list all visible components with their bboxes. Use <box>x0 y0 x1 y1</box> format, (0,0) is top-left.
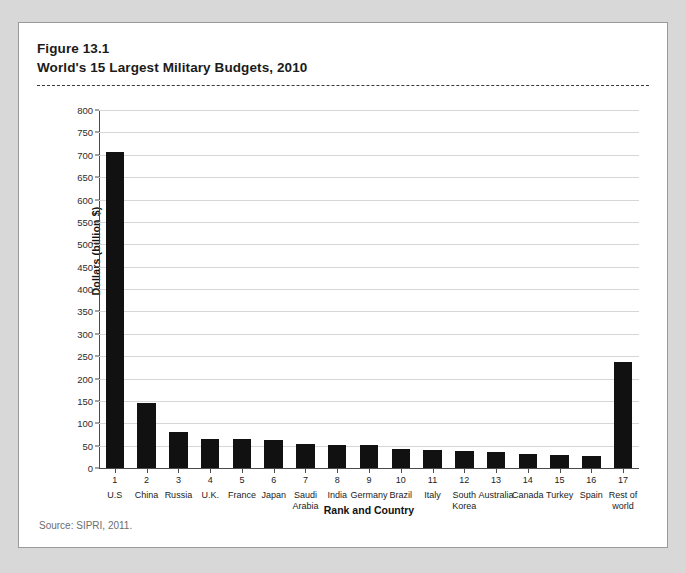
y-tick-mark <box>95 221 99 222</box>
bar <box>392 449 410 468</box>
y-tick-label: 600 <box>77 194 93 205</box>
gridline: 350 <box>99 311 639 312</box>
x-tick-mark <box>210 469 211 473</box>
y-tick-label: 350 <box>77 306 93 317</box>
bar <box>455 451 473 468</box>
x-category-rank: 17 <box>604 475 642 487</box>
bar <box>296 444 314 468</box>
y-tick-label: 650 <box>77 172 93 183</box>
gridline: 600 <box>99 200 639 201</box>
y-tick-mark <box>95 110 99 111</box>
y-tick-mark <box>95 378 99 379</box>
x-tick-mark <box>623 469 624 473</box>
y-tick-label: 100 <box>77 418 93 429</box>
gridline: 750 <box>99 132 639 133</box>
bar <box>614 362 632 469</box>
y-tick-label: 800 <box>77 105 93 116</box>
y-tick-label: 150 <box>77 395 93 406</box>
y-tick-mark <box>95 445 99 446</box>
x-tick-mark <box>242 469 243 473</box>
y-tick-mark <box>95 244 99 245</box>
source-note: Source: SIPRI, 2011. <box>39 520 132 531</box>
y-axis-line <box>99 111 100 469</box>
x-tick-mark <box>433 469 434 473</box>
x-tick-mark <box>496 469 497 473</box>
y-tick-label: 250 <box>77 351 93 362</box>
x-tick-mark <box>464 469 465 473</box>
plot-area: 0501001502002503003504004505005506006507… <box>99 111 639 469</box>
x-tick-mark <box>178 469 179 473</box>
x-tick-mark <box>274 469 275 473</box>
y-tick-label: 50 <box>82 440 93 451</box>
y-tick-mark <box>95 289 99 290</box>
x-tick-mark <box>147 469 148 473</box>
gridline: 150 <box>99 401 639 402</box>
bar <box>169 432 187 468</box>
x-tick-mark <box>528 469 529 473</box>
y-tick-mark <box>95 311 99 312</box>
x-tick-mark <box>115 469 116 473</box>
gridline: 550 <box>99 222 639 223</box>
bar <box>360 445 378 468</box>
y-tick-label: 0 <box>88 463 93 474</box>
gridline: 500 <box>99 244 639 245</box>
gridline: 250 <box>99 356 639 357</box>
y-tick-mark <box>95 423 99 424</box>
gridline: 800 <box>99 110 639 111</box>
gridline: 650 <box>99 177 639 178</box>
y-tick-label: 750 <box>77 127 93 138</box>
header-divider <box>37 85 649 86</box>
figure-card: Figure 13.1 World's 15 Largest Military … <box>18 22 668 548</box>
bar <box>106 152 124 468</box>
gridline: 700 <box>99 155 639 156</box>
y-tick-label: 200 <box>77 373 93 384</box>
figure-number: Figure 13.1 <box>37 39 637 58</box>
y-tick-label: 450 <box>77 261 93 272</box>
y-tick-mark <box>95 468 99 469</box>
bar <box>423 450 441 468</box>
bar <box>137 403 155 468</box>
bar <box>264 440 282 468</box>
gridline: 200 <box>99 379 639 380</box>
x-tick-mark <box>591 469 592 473</box>
figure-title: World's 15 Largest Military Budgets, 201… <box>37 58 637 77</box>
y-tick-mark <box>95 356 99 357</box>
bar <box>487 452 505 468</box>
bar <box>201 439 219 468</box>
y-tick-mark <box>95 333 99 334</box>
bar <box>550 455 568 468</box>
y-tick-label: 500 <box>77 239 93 250</box>
figure-header: Figure 13.1 World's 15 Largest Military … <box>37 39 637 77</box>
y-tick-mark <box>95 132 99 133</box>
y-tick-label: 700 <box>77 149 93 160</box>
x-axis-title: Rank and Country <box>99 504 639 516</box>
chart-area: Dollars (billion $) 05010015020025030035… <box>37 95 649 515</box>
y-tick-label: 550 <box>77 216 93 227</box>
bar <box>233 439 251 468</box>
gridline: 300 <box>99 334 639 335</box>
y-tick-label: 400 <box>77 284 93 295</box>
y-tick-mark <box>95 177 99 178</box>
x-tick-mark <box>305 469 306 473</box>
bar <box>582 456 600 468</box>
bar <box>519 454 537 468</box>
x-tick-mark <box>401 469 402 473</box>
y-tick-mark <box>95 266 99 267</box>
gridline: 400 <box>99 289 639 290</box>
y-tick-mark <box>95 154 99 155</box>
y-tick-label: 300 <box>77 328 93 339</box>
x-tick-mark <box>337 469 338 473</box>
bar <box>328 445 346 468</box>
gridline: 100 <box>99 423 639 424</box>
x-tick-mark <box>560 469 561 473</box>
y-tick-mark <box>95 400 99 401</box>
x-tick-mark <box>369 469 370 473</box>
gridline: 450 <box>99 267 639 268</box>
y-tick-mark <box>95 199 99 200</box>
